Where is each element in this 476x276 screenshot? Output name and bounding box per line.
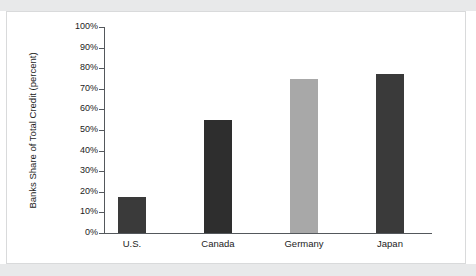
y-tick-label-row: 20% xyxy=(52,192,104,193)
y-tick-label-row: 80% xyxy=(52,68,104,69)
y-axis-title: Banks Share of Total Credit (percent) xyxy=(27,36,38,226)
y-tick-label-row: 70% xyxy=(52,89,104,90)
y-tick-label: 100% xyxy=(58,22,98,31)
y-tick-label: 10% xyxy=(58,207,98,216)
y-tick-label: 0% xyxy=(58,228,98,237)
y-tick-label-row: 10% xyxy=(52,212,104,213)
y-tick-label: 50% xyxy=(58,125,98,134)
y-tick-label-row: 60% xyxy=(52,109,104,110)
bar-u-s xyxy=(118,197,146,233)
x-axis-label: U.S. xyxy=(92,238,172,249)
y-tick-label: 80% xyxy=(58,63,98,72)
y-tick-label-row: 50% xyxy=(52,130,104,131)
x-axis-label: Japan xyxy=(350,238,430,249)
y-axis-line xyxy=(104,27,105,234)
y-tick-label-row: 40% xyxy=(52,151,104,152)
y-tick-label-row: 90% xyxy=(52,48,104,49)
bar-canada xyxy=(204,120,232,233)
chart-canvas: Banks Share of Total Credit (percent) 10… xyxy=(0,0,476,276)
y-tick-label: 90% xyxy=(58,43,98,52)
y-tick-label: 40% xyxy=(58,146,98,155)
x-axis-label: Germany xyxy=(264,238,344,249)
y-tick-label-row: 100% xyxy=(52,27,104,28)
y-tick-label: 20% xyxy=(58,187,98,196)
y-tick-label-row: 30% xyxy=(52,171,104,172)
y-tick-label-row: 0% xyxy=(52,233,104,234)
y-tick-label: 60% xyxy=(58,104,98,113)
bar-germany xyxy=(290,79,318,234)
x-axis-line xyxy=(104,233,432,234)
plot-area: Banks Share of Total Credit (percent) 10… xyxy=(0,0,476,276)
y-tick-label: 70% xyxy=(58,84,98,93)
bar-japan xyxy=(376,74,404,233)
y-tick-label: 30% xyxy=(58,166,98,175)
x-axis-label: Canada xyxy=(178,238,258,249)
